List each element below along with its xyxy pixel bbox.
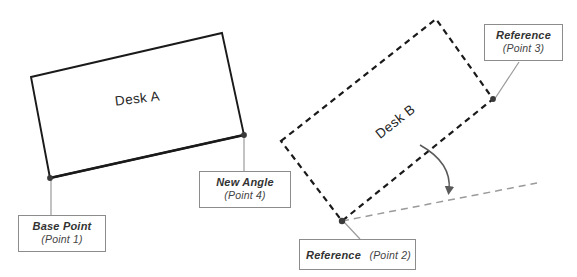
point-3-marker — [490, 96, 496, 102]
callout-new-angle: New Angle (Point 4) — [199, 171, 291, 208]
callout-reference-point-3-sub: (Point 3) — [491, 42, 556, 55]
callout-reference-point-2-sub: (Point 2) — [369, 249, 410, 261]
diagram-canvas: Desk A Desk B Base Point (Point 1) New A… — [0, 0, 577, 277]
callout-new-angle-title: New Angle — [206, 176, 284, 189]
callout-reference-point-3: Reference (Point 3) — [484, 24, 563, 61]
leader-reference-point-2 — [344, 222, 360, 239]
leader-reference-point-3 — [494, 62, 519, 100]
callout-reference-point-3-title: Reference — [491, 29, 556, 42]
point-2-marker — [339, 218, 345, 224]
callout-reference-point-2: Reference (Point 2) — [299, 239, 416, 270]
point-4-marker — [241, 132, 247, 138]
point-1-marker — [47, 175, 53, 181]
callout-base-point: Base Point (Point 1) — [18, 215, 106, 252]
callout-base-point-sub: (Point 1) — [25, 233, 99, 246]
callout-new-angle-sub: (Point 4) — [206, 189, 284, 202]
callout-base-point-title: Base Point — [25, 220, 99, 233]
callout-reference-point-2-title: Reference — [306, 249, 361, 261]
